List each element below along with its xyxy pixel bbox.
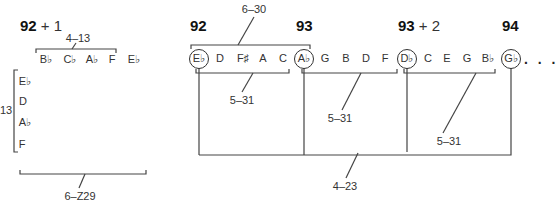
measure-label-92: 92	[190, 17, 207, 34]
set-label-5-31: 5–31	[437, 135, 461, 147]
measure-number: 92	[190, 17, 207, 34]
measure-number: 93	[296, 17, 313, 34]
note: F	[382, 52, 389, 64]
note: C	[279, 52, 287, 64]
note: F♯	[237, 52, 249, 64]
note: B♭	[482, 52, 494, 65]
column-note: E♭	[19, 75, 31, 88]
set-label-5-31: 5–31	[230, 94, 254, 106]
measure-offset: + 1	[41, 17, 62, 34]
note: B	[342, 52, 349, 64]
measure-label-94: 94	[502, 17, 519, 34]
set-label-13: 13	[0, 104, 12, 116]
note: C	[424, 52, 432, 64]
set-label-4-23: 4–23	[333, 180, 357, 192]
note-circled: E♭	[193, 52, 205, 65]
note-circled: D♭	[401, 52, 414, 65]
note: A	[259, 52, 266, 64]
note: G	[463, 52, 472, 64]
measure-number: 94	[502, 17, 519, 34]
column-note: F	[19, 138, 26, 150]
note: D	[362, 52, 370, 64]
note: G	[321, 52, 330, 64]
note-circled: A♭	[298, 52, 310, 65]
measure-offset: + 2	[419, 17, 440, 34]
measure-number: 92	[20, 17, 37, 34]
set-label-4-13: 4–13	[66, 32, 90, 44]
note: E	[443, 52, 450, 64]
row-note: B♭	[40, 53, 52, 66]
row-note: A♭	[86, 53, 98, 66]
note-circled: G♭	[504, 52, 518, 65]
measure-label-92-plus-1: 92 + 1	[20, 17, 62, 34]
column-note: A♭	[19, 116, 31, 129]
column-note: D	[19, 95, 27, 107]
measure-label-93-plus-2: 93 + 2	[398, 17, 440, 34]
row-note: C♭	[64, 53, 77, 66]
row-note: F	[109, 53, 116, 65]
set-label-6-z29: 6–Z29	[64, 190, 95, 202]
set-label-6-30: 6–30	[242, 3, 266, 15]
measure-number: 93	[398, 17, 415, 34]
measure-label-93: 93	[296, 17, 313, 34]
continuation-dots: . . .	[524, 51, 558, 67]
set-label-5-31: 5–31	[328, 112, 352, 124]
note: D	[216, 52, 224, 64]
row-extra-note: E♭	[128, 53, 140, 66]
